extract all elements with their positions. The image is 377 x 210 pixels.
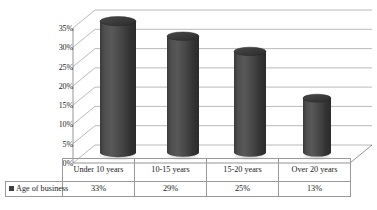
y-tick-label: 5% (40, 141, 73, 149)
category-label-0: Under 10 years (63, 159, 135, 182)
bar-10-15-years[interactable] (164, 32, 202, 161)
table-row-values: Age of business 33% 29% 25% 13% (6, 182, 351, 197)
chart-data-table: Under 10 years 10-15 years 15-20 years O… (5, 158, 351, 197)
value-cell-0: 33% (63, 182, 135, 197)
legend-entry-age-of-business[interactable]: Age of business (6, 182, 63, 197)
y-tick-label: 10% (40, 121, 73, 129)
y-tick-label: 25% (40, 64, 73, 72)
y-tick-label: 15% (40, 102, 73, 110)
legend-swatch-icon (9, 186, 14, 191)
value-cell-2: 25% (207, 182, 279, 197)
category-label-2: 15-20 years (207, 159, 279, 182)
value-cell-3: 13% (279, 182, 351, 197)
category-label-1: 10-15 years (135, 159, 207, 182)
value-cell-1: 29% (135, 182, 207, 197)
chart-container: 35% 30% 25% 20% 15% 10% 5% 0% Under 10 y… (0, 0, 377, 210)
table-row-categories: Under 10 years 10-15 years 15-20 years O… (6, 159, 351, 182)
legend-label: Age of business (16, 184, 68, 193)
y-tick-label: 20% (40, 83, 73, 91)
category-label-3: Over 20 years (279, 159, 351, 182)
y-tick-label: 35% (40, 25, 73, 33)
bar-over-20-years[interactable] (300, 94, 334, 161)
table-cell-empty (6, 159, 63, 182)
bar-under-10-years[interactable] (97, 17, 139, 162)
plot-side-wall (73, 10, 95, 163)
y-tick-label: 30% (40, 44, 73, 52)
bar-15-20-years[interactable] (231, 47, 269, 161)
